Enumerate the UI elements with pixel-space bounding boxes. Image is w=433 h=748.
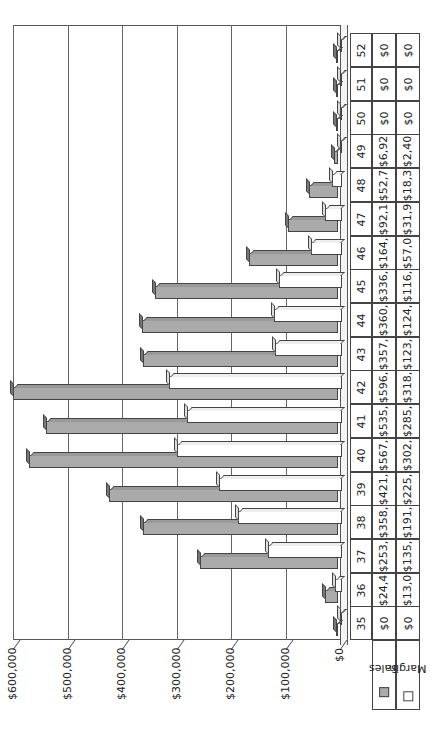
table-sales-cell-text: $421, <box>378 473 391 505</box>
table-sales-cell-text: $0 <box>378 43 391 57</box>
bar-3d-side-face <box>239 508 345 512</box>
margin-bar <box>325 208 342 221</box>
margin-bar <box>332 174 342 187</box>
bar-3d-side-face <box>269 542 345 546</box>
sales-bar <box>336 118 338 131</box>
table-margin-cell-text: $13,0 <box>402 574 415 606</box>
table-category-cell-text: 41 <box>355 414 368 428</box>
table-sales-cell: $253, <box>372 539 396 573</box>
table-margin-cell-text: $57,0 <box>402 237 415 269</box>
table-category-cell: 36 <box>350 573 372 607</box>
table-margin-cell: $13,0 <box>396 573 420 607</box>
table-margin-cell: $191, <box>396 505 420 539</box>
bar-3d-end-face <box>337 66 341 83</box>
gridline <box>13 25 14 640</box>
bar-3d-end-face <box>139 313 143 330</box>
bar-3d-end-face <box>329 167 333 184</box>
margin-bar <box>340 140 342 153</box>
table-sales-cell: $52,7 <box>372 168 396 202</box>
table-sales-cell: $357, <box>372 337 396 371</box>
bar-3d-side-face <box>275 306 345 310</box>
table-sales-cell: $0 <box>372 33 396 67</box>
table-margin-cell: $124, <box>396 303 420 337</box>
margin-bar <box>274 309 342 322</box>
bar-3d-end-face <box>337 100 341 117</box>
margin-bar <box>340 107 342 120</box>
table-sales-cell: $24,4 <box>372 573 396 607</box>
table-category-cell-text: 44 <box>355 313 368 327</box>
bar-3d-end-face <box>272 336 276 353</box>
bar-3d-end-face <box>184 403 188 420</box>
table-category-cell-text: 42 <box>355 380 368 394</box>
legend-key-margin-text: Margin <box>402 649 415 701</box>
margin-bar <box>275 343 342 356</box>
table-category-cell-text: 52 <box>355 43 368 57</box>
table-sales-cell: $567, <box>372 438 396 472</box>
bar-3d-end-face <box>333 77 337 94</box>
table-category-cell-text: 43 <box>355 347 368 361</box>
table-category-cell-text: 36 <box>355 583 368 597</box>
bar-3d-end-face <box>235 504 239 521</box>
table-category-cell-text: 35 <box>355 616 368 630</box>
margin-bar <box>187 410 342 423</box>
bar-3d-end-face <box>106 482 110 499</box>
table-margin-cell-text: $302, <box>402 439 415 471</box>
table-sales-cell-text: $596, <box>378 371 391 403</box>
table-sales-cell: $336, <box>372 269 396 303</box>
margin-bar <box>238 511 342 524</box>
value-axis-tick-label: $100,000 <box>279 648 292 701</box>
value-axis-tick-label: $400,000 <box>115 648 128 701</box>
table-category-cell-text: 50 <box>355 111 368 125</box>
chart-canvas: $0$100,000$200,000$300,000$400,000$500,0… <box>0 0 433 748</box>
table-sales-cell: $421, <box>372 472 396 506</box>
table-sales-cell-text: $0 <box>378 77 391 91</box>
table-category-cell-text: 47 <box>355 212 368 226</box>
value-axis-tick-label: $500,000 <box>61 648 74 701</box>
margin-bar <box>340 612 342 625</box>
margin-bar <box>340 73 342 86</box>
table-margin-cell-text: $0 <box>402 111 415 125</box>
bar-3d-side-face <box>280 272 345 276</box>
table-category-cell: 43 <box>350 337 372 371</box>
table-margin-cell: $123, <box>396 337 420 371</box>
table-sales-cell: $164, <box>372 236 396 270</box>
legend-margin-label: Margin <box>389 662 427 675</box>
bar-3d-end-face <box>43 414 47 431</box>
bar-3d-end-face <box>308 235 312 252</box>
bar-3d-end-face <box>337 605 341 622</box>
margin-bar <box>169 376 342 389</box>
sales-bar <box>336 50 338 63</box>
table-margin-cell: $0 <box>396 101 420 135</box>
gridline <box>122 25 123 640</box>
table-margin-cell-text: $135, <box>402 540 415 572</box>
table-sales-cell-text: $92,1 <box>378 203 391 235</box>
bar-3d-side-face <box>170 373 345 377</box>
sales-bar <box>336 623 338 636</box>
table-sales-cell-text: $358, <box>378 506 391 538</box>
table-margin-cell-text: $124, <box>402 304 415 336</box>
table-sales-cell: $6,92 <box>372 134 396 168</box>
bar-3d-end-face <box>333 43 337 60</box>
value-axis-tick-label: $300,000 <box>170 648 183 701</box>
bar-3d-end-face <box>306 178 310 195</box>
bar-3d-side-face <box>178 441 345 445</box>
table-category-cell: 49 <box>350 134 372 168</box>
table-margin-cell: $116, <box>396 269 420 303</box>
table-category-cell-text: 38 <box>355 515 368 529</box>
table-margin-cell: $18,3 <box>396 168 420 202</box>
bar-3d-end-face <box>333 616 337 633</box>
table-sales-cell: $92,1 <box>372 202 396 236</box>
bar-3d-end-face <box>265 538 269 555</box>
table-category-cell-text: 39 <box>355 482 368 496</box>
table-sales-cell-text: $336, <box>378 270 391 302</box>
table-sales-cell-text: $164, <box>378 237 391 269</box>
table-category-cell-text: 37 <box>355 549 368 563</box>
table-sales-cell-text: $253, <box>378 540 391 572</box>
legend-key-margin: Margin <box>396 640 420 710</box>
table-sales-cell: $360, <box>372 303 396 337</box>
sales-swatch-icon <box>380 687 390 697</box>
bar-3d-end-face <box>246 246 250 263</box>
bar-3d-end-face <box>166 369 170 386</box>
legend-key-sales: Sales <box>372 640 396 710</box>
table-margin-cell: $135, <box>396 539 420 573</box>
